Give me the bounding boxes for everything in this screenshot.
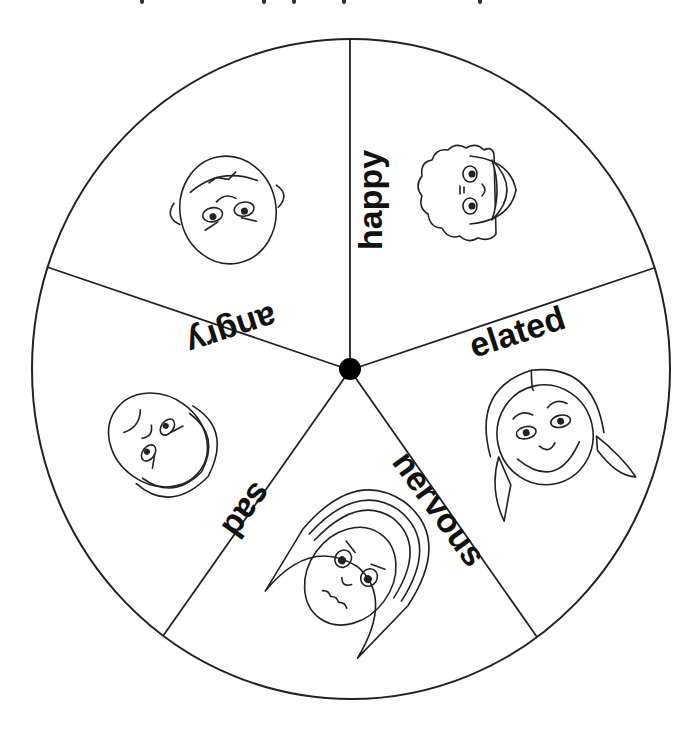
segment-label-sad: sad bbox=[215, 476, 280, 546]
frowning-face-icon bbox=[88, 370, 237, 515]
segment-label-happy: happy bbox=[351, 150, 389, 250]
emotion-wheel: happy elated nervous sad angry bbox=[0, 0, 698, 731]
segment-label-elated: elated bbox=[464, 298, 569, 365]
curly-haired-smiling-face-icon bbox=[418, 145, 516, 240]
wheel-hub bbox=[339, 358, 361, 380]
segment-label-angry: angry bbox=[182, 298, 282, 363]
segment-label-nervous: nervous bbox=[385, 444, 493, 573]
bald-scowling-face-icon bbox=[162, 147, 294, 273]
pigtails-girl-grinning-face-icon bbox=[472, 354, 639, 522]
